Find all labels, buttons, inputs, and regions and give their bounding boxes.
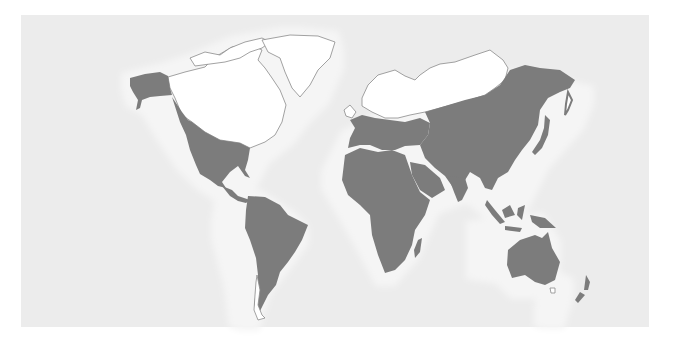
region-scandinavia bbox=[344, 105, 356, 118]
region-new-zealand bbox=[575, 275, 590, 303]
region-tasmania bbox=[550, 288, 555, 293]
world-map bbox=[0, 0, 677, 353]
region-madagascar bbox=[414, 238, 422, 258]
region-europe-south bbox=[348, 115, 430, 150]
